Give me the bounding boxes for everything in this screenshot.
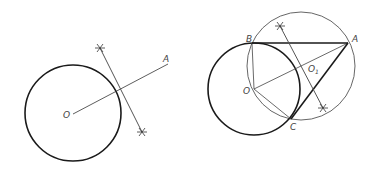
- left-figure: O A: [25, 44, 169, 161]
- right-figure: B A O C O1: [208, 12, 358, 135]
- label-A: A: [351, 34, 358, 44]
- tangent-construction-diagram: O A B A O C O1: [0, 0, 381, 176]
- perpendicular-bisector: [280, 26, 323, 108]
- radius-OC: [254, 89, 291, 119]
- label-C: C: [290, 122, 297, 132]
- label-A: A: [162, 54, 169, 64]
- label-B: B: [246, 34, 252, 44]
- radius-OB: [252, 43, 254, 89]
- label-O: O: [63, 110, 70, 120]
- label-O: O: [243, 86, 250, 96]
- given-circle: [25, 65, 121, 161]
- label-O1: O1: [308, 64, 319, 75]
